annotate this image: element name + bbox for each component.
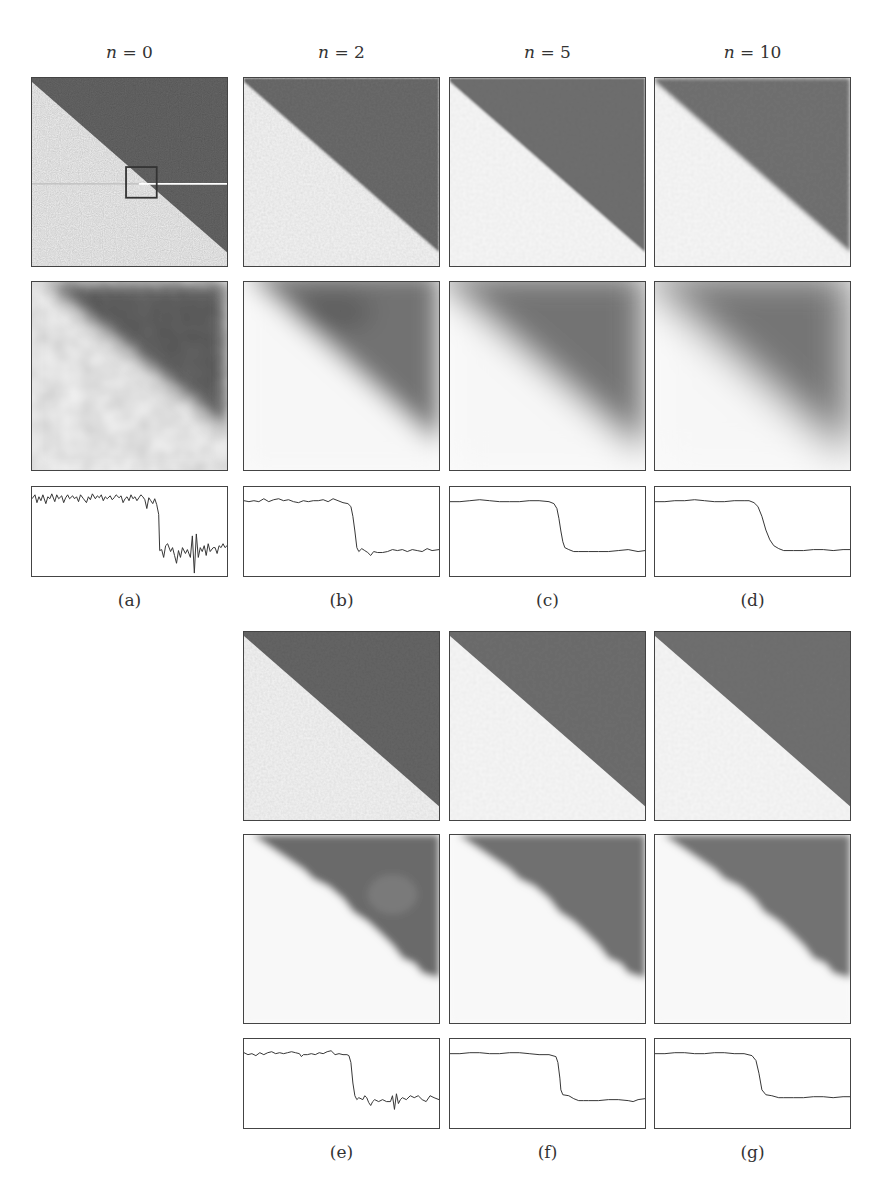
profile-f bbox=[449, 1038, 646, 1129]
panel-e-full-view bbox=[243, 631, 440, 821]
panel-g-zoom-view bbox=[654, 834, 851, 1024]
column-header-n5: n = 5 bbox=[449, 42, 646, 62]
panel-c-full-view bbox=[449, 77, 646, 267]
profile-a bbox=[31, 486, 228, 577]
caption-d: (d) bbox=[654, 590, 851, 610]
profile-c bbox=[449, 486, 646, 577]
panel-a-full-view bbox=[31, 77, 228, 267]
panel-b-zoom-view bbox=[243, 281, 440, 471]
caption-f: (f) bbox=[449, 1142, 646, 1162]
column-header-n0: n = 0 bbox=[31, 42, 228, 62]
caption-a: (a) bbox=[31, 590, 228, 610]
panel-c-zoom-view bbox=[449, 281, 646, 471]
caption-b: (b) bbox=[243, 590, 440, 610]
column-header-n10: n = 10 bbox=[654, 42, 851, 62]
panel-e-zoom-view bbox=[243, 834, 440, 1024]
panel-g-full-view bbox=[654, 631, 851, 821]
panel-f-full-view bbox=[449, 631, 646, 821]
column-header-n2: n = 2 bbox=[243, 42, 440, 62]
caption-g: (g) bbox=[654, 1142, 851, 1162]
panel-f-zoom-view bbox=[449, 834, 646, 1024]
panel-a-zoom-view bbox=[31, 281, 228, 471]
panel-d-full-view bbox=[654, 77, 851, 267]
panel-b-full-view bbox=[243, 77, 440, 267]
profile-d bbox=[654, 486, 851, 577]
profile-e bbox=[243, 1038, 440, 1129]
panel-d-zoom-view bbox=[654, 281, 851, 471]
caption-e: (e) bbox=[243, 1142, 440, 1162]
caption-c: (c) bbox=[449, 590, 646, 610]
profile-g bbox=[654, 1038, 851, 1129]
profile-b bbox=[243, 486, 440, 577]
